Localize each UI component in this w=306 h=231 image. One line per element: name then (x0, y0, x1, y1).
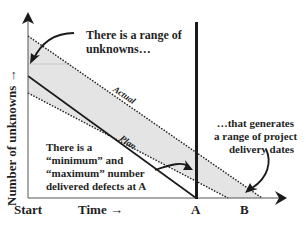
y-axis-label: Number of unknowns → (4, 69, 20, 206)
marker-a-line (195, 22, 198, 199)
annotation-line: There is a (46, 141, 146, 154)
annotation-line: There is a range of (86, 28, 182, 42)
annotation-line: “minimum” and (46, 154, 146, 167)
annotation-delivery-dates: …that generates a range of project deliv… (214, 117, 294, 156)
x-axis-time-label: Time → (78, 203, 123, 217)
diagram-canvas: Number of unknowns → Actual Plan There i… (0, 0, 306, 231)
annotation-min-max-defects: There is a “minimum” and “maximum” numbe… (46, 141, 146, 193)
marker-b-label: B (240, 203, 249, 217)
annotation-line: unknowns… (86, 42, 182, 56)
annotation-range-of-unknowns: There is a range of unknowns… (86, 28, 182, 56)
annotation-line: …that generates (214, 117, 294, 130)
marker-a-label: A (191, 203, 200, 217)
annotation-line: delivered defects at A (46, 180, 146, 193)
annotation-line: a range of project (214, 130, 294, 143)
x-axis-start-label: Start (14, 203, 42, 217)
annotation-line: delivery dates (214, 143, 294, 156)
annotation-line: “maximum” number (46, 167, 146, 180)
